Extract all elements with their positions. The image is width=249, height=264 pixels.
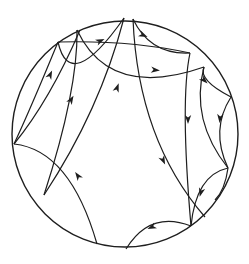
hyperbolic-disk-diagram (0, 0, 249, 264)
direction-arrows (45, 30, 223, 232)
geodesic-arc (126, 221, 191, 249)
geodesic-arc (200, 67, 228, 168)
boundary-circle (12, 21, 238, 247)
arrowhead-icon (113, 82, 122, 93)
arrowhead-icon (73, 170, 83, 181)
geodesic-arc (220, 97, 231, 168)
arrowhead-icon (216, 114, 223, 124)
geodesic-arc (14, 30, 80, 144)
arrowhead-icon (151, 66, 161, 73)
geodesic-arc (14, 42, 58, 144)
geodesic-arc (185, 53, 191, 226)
geodesic-arc (191, 168, 228, 226)
geodesic-arc (77, 30, 204, 78)
geodesic-arc (203, 67, 231, 97)
arrowhead-icon (45, 69, 55, 80)
arrowhead-icon (66, 94, 76, 105)
